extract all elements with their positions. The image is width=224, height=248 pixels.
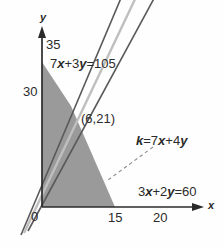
constraint2-rhs: =60	[175, 184, 197, 199]
linear-programming-chart: y x 0 35 30 15 20 7x+3y=105 (6,21) k=7x+…	[0, 0, 224, 248]
y-axis-label: y	[40, 12, 46, 23]
leader-line-dashed	[108, 147, 153, 180]
constraint2-coef2: +2	[152, 184, 167, 199]
objective-var-y: y	[180, 133, 187, 148]
objective-coef2: +4	[165, 133, 180, 148]
constraint1-rhs: =105	[87, 56, 116, 71]
vertex-label: (6,21)	[81, 112, 115, 125]
constraint1-var-y: y	[79, 56, 86, 71]
x-tick-label-20: 20	[153, 211, 167, 224]
constraint2-var-y: y	[167, 184, 174, 199]
x-axis-label: x	[208, 200, 214, 211]
y-tick-label-30: 30	[23, 85, 37, 98]
x-axis-arrowhead	[192, 203, 204, 211]
x-tick-label-15: 15	[108, 211, 122, 224]
constraint-label-3x2y60: 3x+2y=60	[138, 185, 197, 198]
y-tick-label-35: 35	[46, 38, 60, 51]
origin-tick-label: 0	[31, 210, 38, 223]
constraint-label-7x3y105: 7x+3y=105	[50, 57, 116, 70]
objective-label-k: k=7x+4y	[136, 134, 187, 147]
y-axis-arrowhead	[38, 26, 46, 38]
objective-eq: =7	[143, 133, 158, 148]
constraint1-coef2: +3	[64, 56, 79, 71]
